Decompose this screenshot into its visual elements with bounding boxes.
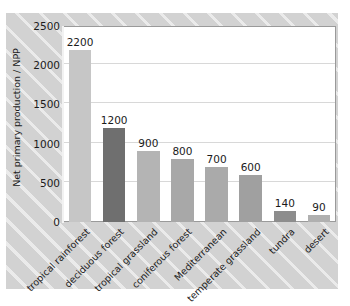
x-tick-label: tundra [267, 226, 297, 256]
x-tick-label: tropical grassland [92, 226, 160, 294]
x-tick-label: deciduous forest [62, 226, 126, 290]
x-tick-label: desert [302, 226, 331, 255]
x-tick-label: coniferous forest [130, 226, 194, 290]
x-axis-tick-labels: tropical rainforestdeciduous foresttropi… [0, 0, 350, 306]
chart-figure: 05001000150020002500 Net primary product… [0, 0, 350, 306]
x-tick-label: tropical rainforest [24, 226, 91, 293]
